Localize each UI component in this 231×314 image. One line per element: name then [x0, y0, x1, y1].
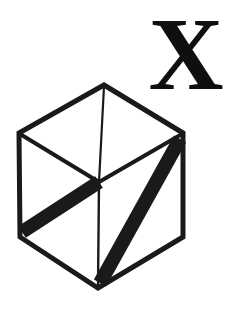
inner-edge-upper-left-to-center	[20, 134, 99, 182]
inner-edge-center-to-bottom	[98, 182, 99, 287]
band-center-to-lower-left	[22, 182, 99, 232]
letter-x-label: X	[143, 0, 229, 114]
inner-edge-top-to-center	[99, 86, 104, 182]
figure-canvas: X	[0, 0, 231, 314]
